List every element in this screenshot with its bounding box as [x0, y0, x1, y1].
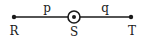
point-t-dot — [129, 15, 133, 19]
segment-label-p: p — [43, 1, 51, 15]
segment-label-q: q — [101, 1, 109, 15]
line-diagram: p q R S T — [0, 0, 145, 46]
point-label-s: S — [70, 25, 78, 39]
point-label-t: T — [128, 24, 136, 38]
point-label-r: R — [9, 24, 19, 38]
point-s-circled-dot-icon — [68, 11, 80, 23]
point-r-dot — [12, 15, 16, 19]
